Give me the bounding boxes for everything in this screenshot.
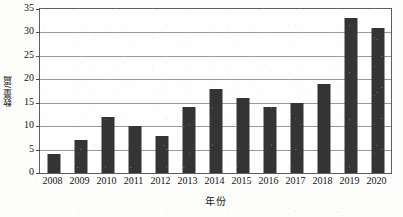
bar-slot [202, 9, 229, 173]
bar [155, 136, 168, 173]
bar-slot [148, 9, 175, 173]
y-axis-tick-label: 25 [24, 50, 34, 60]
y-axis-tick-label-group: 05101520253035 [14, 0, 36, 185]
x-axis-tick-label: 2008 [43, 176, 63, 186]
bar [236, 98, 249, 173]
y-axis-title: 数量/篇 [0, 56, 14, 126]
x-axis-tick-label-group: 2008200920102011201220132014201520162017… [39, 176, 392, 190]
x-axis-tick-label: 2010 [97, 176, 117, 186]
plot-area [39, 8, 392, 174]
x-axis-tick-label: 2009 [70, 176, 90, 186]
bar-slot [256, 9, 283, 173]
bar [182, 107, 195, 173]
bar [290, 103, 303, 173]
bar-chart-figure: 数量/篇 05101520253035 20082009201020112012… [0, 0, 403, 217]
x-axis-tick-label: 2020 [367, 176, 387, 186]
bar [128, 126, 141, 173]
x-axis-tick-label: 2018 [313, 176, 333, 186]
bar-slot [364, 9, 391, 173]
bar-slot [67, 9, 94, 173]
x-axis-tick-label: 2015 [232, 176, 252, 186]
x-axis-tick-label: 2014 [205, 176, 225, 186]
bar-slot [94, 9, 121, 173]
bar [371, 28, 384, 173]
bar-slot [310, 9, 337, 173]
x-axis-tick-label: 2011 [124, 176, 144, 186]
x-axis-tick-label: 2016 [259, 176, 279, 186]
x-axis-tick-label: 2012 [151, 176, 171, 186]
bar-slot [283, 9, 310, 173]
bar [344, 18, 357, 173]
y-axis-tick-label: 10 [24, 120, 34, 130]
bar-series-group [40, 9, 391, 173]
bar [47, 154, 60, 173]
bar-slot [40, 9, 67, 173]
bar [74, 140, 87, 173]
bar [263, 107, 276, 173]
y-axis-tick-label: 20 [24, 73, 34, 83]
bar-slot [175, 9, 202, 173]
bar-slot [121, 9, 148, 173]
x-axis-title: 年份 [39, 193, 392, 208]
bar [101, 117, 114, 173]
y-axis-tick-mark [36, 173, 40, 174]
bar [209, 89, 222, 173]
y-axis-tick-label: 5 [29, 144, 34, 154]
y-axis-tick-label: 30 [24, 26, 34, 36]
bar-slot [229, 9, 256, 173]
bar-slot [337, 9, 364, 173]
y-axis-tick-label: 0 [29, 167, 34, 177]
bar [317, 84, 330, 173]
y-axis-tick-label: 35 [24, 3, 34, 13]
x-axis-tick-label: 2017 [286, 176, 306, 186]
y-axis-tick-label: 15 [24, 97, 34, 107]
x-axis-tick-label: 2019 [340, 176, 360, 186]
x-axis-tick-label: 2013 [178, 176, 198, 186]
